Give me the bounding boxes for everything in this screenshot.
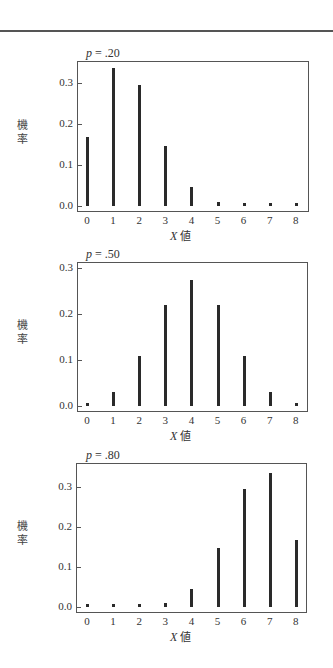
x-tick-label: 0 bbox=[80, 214, 94, 226]
probability-spike bbox=[217, 202, 220, 206]
x-axis-label: X 値 bbox=[170, 427, 191, 444]
probability-spike bbox=[217, 305, 220, 406]
probability-spike bbox=[190, 280, 193, 406]
x-tick-label: 6 bbox=[237, 414, 251, 426]
probability-spike bbox=[243, 356, 246, 406]
x-tick-label: 8 bbox=[289, 414, 303, 426]
x-axis-text: 値 bbox=[180, 230, 191, 243]
y-tick-mark bbox=[77, 124, 82, 125]
y-tick-mark bbox=[77, 83, 82, 84]
y-tick-mark bbox=[76, 607, 81, 608]
x-tick-label: 2 bbox=[132, 214, 146, 226]
x-tick-label: 8 bbox=[289, 615, 303, 627]
y-axis-label: 機率 bbox=[17, 520, 31, 548]
y-tick-label: 0.1 bbox=[43, 158, 73, 170]
y-tick-mark bbox=[77, 268, 82, 269]
y-tick-label: 0.2 bbox=[42, 520, 72, 532]
y-tick-label: 0.1 bbox=[43, 353, 73, 365]
top-rule bbox=[0, 30, 333, 32]
y-axis-label: 機率 bbox=[17, 119, 31, 147]
probability-spike bbox=[190, 589, 193, 607]
chart-title: p = .80 bbox=[86, 448, 120, 463]
x-axis-variable: X bbox=[170, 429, 177, 443]
title-value: = .50 bbox=[95, 247, 120, 261]
y-tick-mark bbox=[77, 206, 82, 207]
x-tick-label: 5 bbox=[211, 615, 225, 627]
x-axis-text: 値 bbox=[180, 430, 191, 443]
x-tick-label: 7 bbox=[263, 615, 277, 627]
probability-spike bbox=[112, 604, 115, 607]
x-tick-label: 3 bbox=[158, 214, 172, 226]
probability-spike bbox=[243, 203, 246, 206]
x-tick-label: 4 bbox=[184, 414, 198, 426]
x-tick-label: 1 bbox=[106, 414, 120, 426]
y-tick-label: 0.0 bbox=[43, 199, 73, 211]
probability-spike bbox=[295, 203, 298, 206]
probability-spike bbox=[138, 85, 141, 206]
probability-spike bbox=[295, 403, 298, 406]
y-tick-mark bbox=[76, 567, 81, 568]
chart-title: p = .20 bbox=[86, 46, 120, 61]
probability-spike bbox=[86, 137, 89, 206]
y-tick-mark bbox=[76, 487, 81, 488]
chart-title: p = .50 bbox=[86, 247, 120, 262]
y-tick-label: 0.2 bbox=[43, 117, 73, 129]
y-tick-mark bbox=[76, 527, 81, 528]
x-axis-label: X 値 bbox=[170, 628, 191, 645]
probability-spike bbox=[86, 403, 89, 406]
y-tick-mark bbox=[77, 360, 82, 361]
x-tick-label: 5 bbox=[211, 414, 225, 426]
x-tick-label: 4 bbox=[184, 214, 198, 226]
x-tick-label: 1 bbox=[106, 214, 120, 226]
probability-spike bbox=[269, 203, 272, 206]
x-tick-label: 3 bbox=[158, 414, 172, 426]
y-tick-label: 0.3 bbox=[43, 76, 73, 88]
probability-spike bbox=[112, 392, 115, 406]
probability-spike bbox=[164, 146, 167, 206]
x-tick-label: 3 bbox=[158, 615, 172, 627]
x-tick-label: 4 bbox=[184, 615, 198, 627]
x-axis-variable: X bbox=[170, 229, 177, 243]
y-tick-mark bbox=[77, 314, 82, 315]
x-tick-label: 7 bbox=[263, 414, 277, 426]
y-axis-label: 機率 bbox=[17, 319, 31, 347]
y-tick-mark bbox=[77, 165, 82, 166]
probability-spike bbox=[86, 604, 89, 607]
probability-spike bbox=[269, 473, 272, 607]
probability-spike bbox=[269, 392, 272, 406]
x-axis-text: 値 bbox=[180, 631, 191, 644]
title-variable: p bbox=[86, 448, 92, 462]
x-tick-label: 2 bbox=[132, 414, 146, 426]
x-tick-label: 1 bbox=[106, 615, 120, 627]
x-tick-label: 5 bbox=[211, 214, 225, 226]
x-tick-label: 7 bbox=[263, 214, 277, 226]
title-variable: p bbox=[86, 247, 92, 261]
probability-spike bbox=[217, 548, 220, 607]
x-tick-label: 8 bbox=[289, 214, 303, 226]
x-tick-label: 6 bbox=[237, 214, 251, 226]
y-tick-label: 0.2 bbox=[43, 307, 73, 319]
x-axis-variable: X bbox=[170, 630, 177, 644]
y-tick-label: 0.1 bbox=[42, 560, 72, 572]
probability-spike bbox=[190, 187, 193, 206]
probability-spike bbox=[164, 603, 167, 607]
title-value: = .20 bbox=[95, 46, 120, 60]
x-tick-label: 2 bbox=[132, 615, 146, 627]
title-variable: p bbox=[86, 46, 92, 60]
probability-spike bbox=[243, 489, 246, 607]
y-tick-mark bbox=[77, 406, 82, 407]
y-tick-label: 0.0 bbox=[42, 600, 72, 612]
x-axis-label: X 値 bbox=[170, 227, 191, 244]
x-tick-label: 6 bbox=[237, 615, 251, 627]
y-tick-label: 0.3 bbox=[42, 480, 72, 492]
y-tick-label: 0.0 bbox=[43, 399, 73, 411]
probability-spike bbox=[138, 604, 141, 607]
probability-spike bbox=[138, 356, 141, 406]
x-tick-label: 0 bbox=[80, 414, 94, 426]
probability-spike bbox=[295, 540, 298, 607]
x-tick-label: 0 bbox=[80, 615, 94, 627]
y-tick-label: 0.3 bbox=[43, 261, 73, 273]
title-value: = .80 bbox=[95, 448, 120, 462]
probability-spike bbox=[112, 68, 115, 206]
probability-spike bbox=[164, 305, 167, 406]
